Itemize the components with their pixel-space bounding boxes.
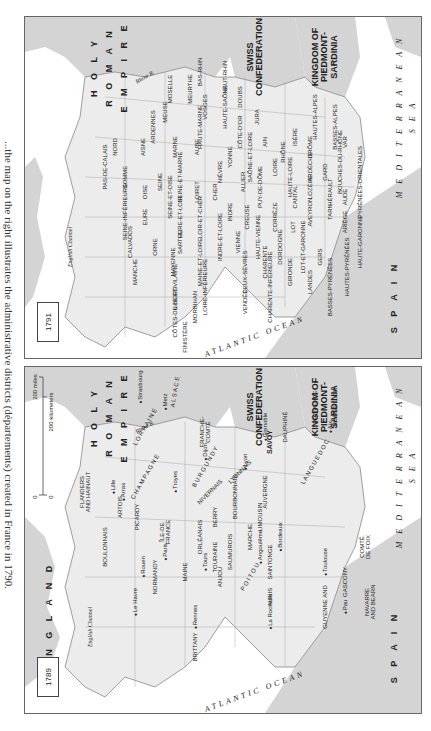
prov-normandy: NORMANDY	[152, 559, 158, 594]
dept-gironde: GIRONDE	[287, 258, 293, 286]
dept-deux-sevres: DEUX-SÈVRES	[242, 250, 248, 293]
dept-cantal: CANTAL	[292, 185, 298, 208]
dept-morbihan: MORBIHAN	[192, 291, 198, 323]
city-rennes: Rennes	[192, 605, 198, 630]
dept-oise: OISE	[142, 185, 148, 199]
dept-vendee: VENDÉE	[242, 290, 248, 315]
city-tours: Tours	[202, 553, 208, 572]
dept-cher: CHER	[212, 183, 218, 200]
dept-orne: ORNE	[152, 238, 158, 255]
dept-loire: LOIRE	[272, 158, 278, 176]
dept-cotes-du-nord: CÔTES-DU-NORD	[172, 287, 178, 338]
dept-lot: LOT	[290, 221, 296, 233]
scale-zero-km: 0	[48, 495, 54, 498]
dept-ariege: ARIÈGE	[342, 211, 348, 234]
city-toulouse: Toulouse	[322, 548, 328, 576]
dept-nievre: NIÈVRE	[217, 161, 223, 183]
label-spain: S P A I N	[390, 611, 399, 684]
prov-ile-de-france: ÎLE-DE FRANCE	[159, 520, 172, 545]
dept-pyrenees-orientales: PYRÉNÉES-ORIENTALES	[357, 146, 363, 218]
label-piedmont: KINGDOM OF PIEDMONT- SARDINIA	[311, 28, 339, 87]
city-strasbourg: Strasbourg	[137, 370, 143, 403]
prov-navarre: NAVARRE AND BEARN	[364, 584, 377, 619]
city-grenoble: Grenoble	[262, 413, 268, 442]
dept-correze: CORRÈZE	[272, 202, 278, 231]
dept-doubs: DOUBS	[237, 86, 243, 107]
prov-auvergne: AUVERGNE	[262, 475, 268, 509]
dept-landes: LANDES	[307, 270, 313, 294]
dept-meurthe: MEURTHE	[187, 74, 193, 104]
city-metz: Metz	[162, 393, 168, 410]
dept-jura: JURA	[254, 109, 260, 125]
dept-tarn: TARN	[327, 204, 333, 220]
prov-berry: BERRY	[212, 507, 218, 528]
dept-seine: SEINE	[157, 173, 163, 191]
label-england: E N G L A N D	[45, 562, 54, 673]
dept-lozere: LOZÈRE	[307, 175, 313, 199]
dept-haute-vienne: HAUTE-VIENNE	[255, 215, 261, 260]
city-bordeaux: Bordeaux	[277, 522, 283, 552]
prov-marche: MARCHE	[247, 524, 253, 550]
city-lyon: Lyon	[242, 454, 248, 471]
dept-meuse: MEUSE	[162, 101, 168, 122]
dept-bouches-du-rhone: BOUCHES-DU-RHÔNE	[337, 130, 343, 194]
label-empire: E M P I R E	[120, 22, 129, 113]
dept-eure: EURE	[142, 209, 148, 226]
dept-aube: AUBE	[194, 139, 200, 155]
dept-ardennes: ARDENNES	[150, 110, 156, 143]
prov-gascony: GASCONY	[342, 567, 348, 597]
dept-finistere: FINISTÈRE	[182, 321, 188, 352]
dept-allier: ALLIER	[240, 172, 246, 193]
dept-moselle: MOSELLE	[167, 75, 173, 103]
dept-charente-inferieure: CHARENTE-INFÉRIEURE	[267, 251, 273, 322]
scale-zero-miles: 0	[32, 495, 38, 498]
dept-haute-saone: HAUTE-SAÔNE	[222, 85, 228, 128]
dept-loir-et-cher: LOIR-ET-CHER	[197, 196, 203, 238]
city-le-havre: Le Havre	[132, 588, 138, 616]
prov-saintonge: SAINTONGE	[267, 544, 273, 579]
label-holy: H O L Y	[90, 37, 99, 97]
dept-hautes-alpes: HAUTES-ALPES	[312, 94, 318, 140]
figure-caption: ...the map on the right illustrates the …	[0, 0, 18, 731]
dept-herault: HÉRAULT	[327, 178, 333, 206]
dept-calvados: CALVADOS	[127, 226, 133, 258]
label-sea: S E A	[409, 101, 417, 134]
prov-guyenne: GUYENNE AND	[322, 585, 328, 629]
dept-ain: AIN	[262, 137, 268, 147]
dept-basses-pyrenees: BASSES-PYRÉNÉES	[327, 258, 333, 317]
label-spain: S P A I N	[390, 261, 399, 334]
dept-bas-rhin: BAS-RHIN	[197, 58, 203, 87]
dept-indre-et-loire: INDRE-ET-LOIRE	[217, 213, 223, 261]
year-box-1791: 1791	[37, 302, 59, 342]
city-dijon: Dijon	[202, 443, 208, 461]
prov-picardy: PICARDY	[134, 504, 140, 531]
label-channel: English Channel	[87, 607, 93, 647]
city-angouleme: Angoulême	[257, 530, 263, 564]
label-swiss: SWISS CONFEDERATION	[246, 18, 265, 96]
prov-foix: COMTÉ DE FOIX	[359, 535, 372, 559]
prov-orleanais: ORLÉANAIS	[197, 520, 203, 554]
label-holy: H O L Y	[90, 387, 99, 447]
city-aix: Aix	[327, 421, 333, 433]
city-arras: Arras	[120, 483, 126, 501]
dept-manche: MANCHE	[132, 259, 138, 285]
dept-aude: AUDE	[342, 189, 348, 206]
label-mediterranean: M E D I T E R R A N E A N	[396, 36, 404, 199]
label-mediterranean: M E D I T E R R A N E A N	[396, 386, 404, 549]
label-roman: R O M A N	[105, 377, 114, 456]
prov-boulonnais: BOULONNAIS	[102, 527, 108, 566]
dept-seine-et-marne: SEINE-ET-MARNE	[177, 151, 183, 202]
city-la-rochelle: La Rochelle	[267, 594, 273, 630]
city-pau: Pau	[342, 600, 348, 615]
dept-dordogne: DORDOGNE	[277, 229, 283, 264]
label-channel: English Channel	[67, 227, 73, 267]
city-rouen: Rouen	[140, 556, 146, 578]
dept-aisne: AISNE	[140, 138, 146, 156]
prov-dauphine: DAUPHINÉ	[282, 411, 288, 442]
dept-sarthe: SARTHE	[177, 230, 183, 254]
dept-vienne: VIENNE	[235, 231, 241, 253]
prov-touraine: TOURAINE	[212, 542, 218, 573]
label-empire: E M P I R E	[120, 372, 129, 463]
label-roman: R O M A N	[105, 27, 114, 106]
dept-yonne: YONNE	[227, 146, 233, 167]
